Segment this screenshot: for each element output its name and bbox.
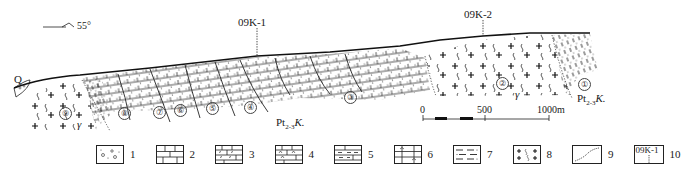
unit-3-8-marble-belt [80,48,430,130]
borehole-marker-icon: 09K-1 [634,145,664,164]
scale-bar [423,115,549,121]
legend-item-2: 2 [156,145,216,164]
quaternary-label: Q [14,74,22,85]
scale-tick-500: 500 [477,105,492,115]
granite-symbol-left: γ [77,119,81,130]
unit-number-8: ⑧ [118,107,131,120]
legend-item-9: 9 [572,145,634,164]
unit-number-2: ② [496,77,509,90]
unit-number-5: ⑤ [206,102,219,115]
legend-item-7: 7 [453,145,513,164]
unit-number-6: ⑥ [174,104,187,117]
borehole-09k-1-label: 09K-1 [238,17,266,28]
legend-item-1: 1 [96,145,156,164]
legend-item-3: 3 [215,145,275,164]
dashed-schist-pattern-icon [453,145,481,164]
legend-item-8: 8 [513,145,573,164]
granite-symbol-right: γ [515,89,519,100]
calc-schist-pattern-icon [394,145,422,164]
unit-number-9: ⑨ [59,107,72,120]
scale-tick-1000m: 1000m [537,105,565,115]
formation-label-center: Pt2-3K. [276,117,305,131]
schist-marble-pattern-icon [334,145,362,164]
conglomerate-pattern-icon [96,145,124,164]
legend-item-6: 6 [394,145,454,164]
unit-number-4: ④ [244,101,257,114]
unit-number-3: ③ [344,91,357,104]
dolomitic-marble-pattern-icon [215,145,243,164]
legend: 1 2 3 4 5 6 7 [96,143,681,165]
boundary-line-icon [572,145,602,164]
formation-label-right: Pt2-3K. [577,93,606,107]
orientation-arrow-icon [43,23,74,27]
legend-item-4: 4 [275,145,335,164]
borehole-09k-2-label: 09K-2 [464,9,492,20]
unit-number-1: ① [578,78,591,91]
unit-number-7: ⑦ [153,106,166,119]
legend-item-5: 5 [334,145,394,164]
granite-pattern-icon [513,145,541,164]
orientation-label: 55° [77,21,91,31]
legend-item-10: 09K-1 10 [634,145,681,164]
siliceous-marble-pattern-icon [275,145,303,164]
scale-tick-0: 0 [420,105,425,115]
limestone-pattern-icon [156,145,184,164]
